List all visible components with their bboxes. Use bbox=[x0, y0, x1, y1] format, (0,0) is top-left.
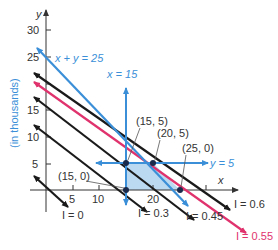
y-ticks bbox=[46, 30, 51, 164]
label-iso-0.3: I = 0.3 bbox=[138, 207, 169, 219]
label-x-plus-y-25: x + y = 25 bbox=[54, 52, 104, 64]
x-axis-var: x bbox=[217, 174, 224, 186]
x-tick-5: 5 bbox=[69, 193, 75, 205]
label-point-25-0: (25, 0) bbox=[182, 142, 214, 154]
linear-programming-graph: 5 10 15 25 30 5 10 20 y x (in thousands)… bbox=[0, 0, 278, 250]
y-axis-var: y bbox=[35, 8, 43, 20]
y-tick-30: 30 bbox=[27, 24, 39, 36]
label-point-20-5: (20, 5) bbox=[157, 127, 189, 139]
x-tick-20: 20 bbox=[147, 193, 159, 205]
label-point-15-0: (15, 0) bbox=[58, 170, 90, 182]
vertex-20-5 bbox=[150, 160, 156, 166]
y-tick-25: 25 bbox=[27, 51, 39, 63]
label-iso-0.55: I = 0.55 bbox=[236, 230, 273, 242]
y-tick-10: 10 bbox=[27, 131, 39, 143]
label-iso-0: I = 0 bbox=[62, 209, 84, 221]
vertex-25-0 bbox=[177, 187, 183, 193]
y-axis-label: (in thousands) bbox=[8, 78, 20, 148]
y-tick-5: 5 bbox=[32, 158, 38, 170]
label-point-15-5: (15, 5) bbox=[136, 115, 168, 127]
x-tick-10: 10 bbox=[92, 193, 104, 205]
label-x-15: x = 15 bbox=[106, 68, 138, 80]
y-tick-15: 15 bbox=[27, 104, 39, 116]
label-iso-0.45: I = 0.45 bbox=[186, 210, 223, 222]
label-y-5: y = 5 bbox=[209, 157, 235, 169]
iso-line-0.45 bbox=[34, 97, 194, 220]
vertex-15-5 bbox=[123, 160, 129, 166]
label-iso-0.6: I = 0.6 bbox=[234, 198, 265, 210]
